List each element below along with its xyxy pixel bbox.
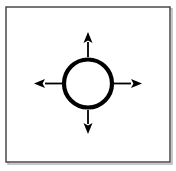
expansion-diagram: [0, 0, 176, 171]
figure-root: Expansion diagram A bold open circle wit…: [0, 0, 176, 171]
center-circle: [64, 60, 112, 108]
